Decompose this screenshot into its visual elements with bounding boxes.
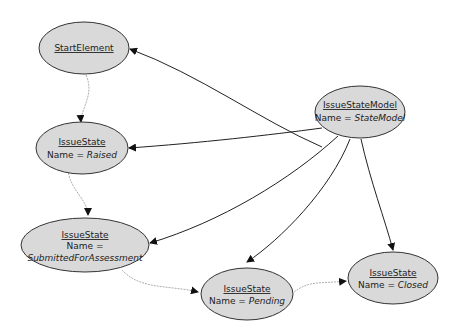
node-title: IssueState [61,230,109,240]
node-issue-state-model[interactable]: IssueStateModel Name = StateModel [315,86,406,138]
edge-model-to-submitted [150,136,338,243]
node-issue-state-pending[interactable]: IssueState Name = Pending [201,268,293,320]
node-issue-state-raised[interactable]: IssueState Name = Raised [36,122,128,174]
node-start-element[interactable]: StartElement [39,22,129,74]
edge-submitted-to-pending [122,270,198,292]
node-title: IssueState [58,137,106,147]
node-name-line: Name = Closed [358,280,428,290]
node-title: StartElement [54,43,114,53]
node-name-line: Name = Raised [47,150,117,160]
node-name-line: Name = Pending [209,296,285,306]
edge-start-to-raised [81,75,89,122]
node-value: SubmittedForAssessment [27,253,143,263]
node-issue-state-submitted[interactable]: IssueState Name = SubmittedForAssessment [21,218,149,272]
edge-model-to-raised [129,128,322,148]
node-issue-state-closed[interactable]: IssueState Name = Closed [348,252,438,304]
edge-model-to-start [130,49,322,147]
edge-pending-to-closed [294,281,346,292]
node-title: IssueState [369,268,417,278]
node-title: IssueState [223,284,271,294]
node-name-line: Name = StateModel [315,113,406,123]
edge-model-to-pending [247,139,350,262]
edge-model-to-closed [361,139,393,250]
node-title: IssueStateModel [323,100,397,110]
edge-raised-to-submitted [68,170,88,215]
node-name-line: Name = [67,241,104,251]
state-diagram: StartElement IssueStateModel Name = Stat… [0,0,458,333]
